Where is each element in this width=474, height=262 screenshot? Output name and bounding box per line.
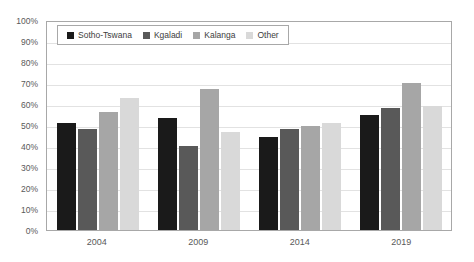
y-axis-tick-label: 80% [21,58,38,68]
bar-sotho-tswana-2009 [158,118,177,230]
bar-other-2014 [322,123,341,230]
bar-sotho-tswana-2014 [259,137,278,230]
y-axis-tick-label: 30% [21,163,38,173]
legend-swatch-icon [67,32,74,39]
legend-item-sotho-tswana[interactable]: Sotho-Tswana [67,30,132,40]
y-axis-tick-label: 100% [16,16,38,26]
y-axis-tick-label: 90% [21,37,38,47]
bar-kalanga-2009 [200,89,219,230]
bar-kgaladi-2009 [179,146,198,230]
legend-swatch-icon [143,32,150,39]
y-axis-tick-label: 40% [21,142,38,152]
x-axis-tick-label: 2009 [148,233,250,253]
bar-other-2019 [423,106,442,230]
bar-groups [47,22,451,230]
y-axis-tick-label: 10% [21,205,38,215]
legend-label: Other [257,30,278,40]
bar-sotho-tswana-2019 [360,115,379,231]
legend-item-other[interactable]: Other [246,30,278,40]
y-axis: 100%90%80%70%60%50%40%30%20%10%0% [0,21,42,231]
x-axis: 2004200920142019 [46,233,452,253]
chart-legend: Sotho-TswanaKgaladiKalangaOther [57,25,289,45]
bar-kalanga-2014 [301,126,320,230]
bar-kgaladi-2004 [78,129,97,230]
bar-kalanga-2004 [99,112,118,230]
legend-label: Kgaladi [154,30,182,40]
y-axis-tick-label: 60% [21,100,38,110]
bar-kalanga-2019 [402,83,421,230]
legend-label: Kalanga [204,30,235,40]
bar-sotho-tswana-2004 [57,123,76,230]
legend-swatch-icon [193,32,200,39]
bar-group-2019 [350,22,451,230]
x-axis-tick-label: 2019 [351,233,453,253]
legend-item-kalanga[interactable]: Kalanga [193,30,235,40]
bar-kgaladi-2019 [381,108,400,230]
bar-group-2009 [148,22,249,230]
x-axis-tick-label: 2004 [46,233,148,253]
bar-group-2014 [249,22,350,230]
plot-area [46,21,452,231]
legend-swatch-icon [246,32,253,39]
bar-kgaladi-2014 [280,129,299,230]
y-axis-tick-label: 0% [26,226,38,236]
y-axis-tick-label: 50% [21,121,38,131]
bar-other-2009 [221,132,240,230]
x-axis-tick-label: 2014 [249,233,351,253]
legend-label: Sotho-Tswana [78,30,132,40]
y-axis-tick-label: 20% [21,184,38,194]
bar-chart: 100%90%80%70%60%50%40%30%20%10%0% Sotho-… [0,0,474,262]
legend-item-kgaladi[interactable]: Kgaladi [143,30,182,40]
bar-other-2004 [120,98,139,230]
bar-group-2004 [47,22,148,230]
y-axis-tick-label: 70% [21,79,38,89]
